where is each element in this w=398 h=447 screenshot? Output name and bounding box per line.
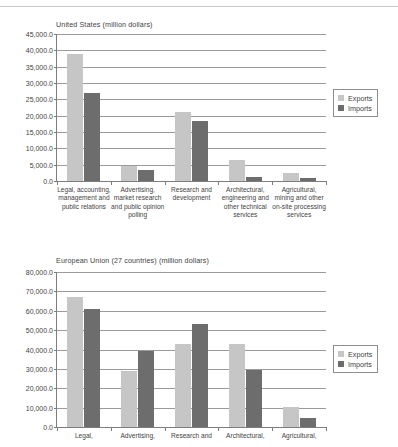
bar-group bbox=[111, 34, 165, 181]
bar-exports bbox=[121, 166, 137, 181]
legend-item-imports: Imports bbox=[338, 359, 372, 369]
bar-exports bbox=[283, 173, 299, 181]
bar-exports bbox=[175, 344, 191, 427]
bar-group bbox=[272, 272, 326, 427]
y-axis-tick-label: 10,000.0 bbox=[26, 145, 53, 152]
bar-group bbox=[218, 34, 272, 181]
x-axis-tick-mark bbox=[272, 427, 273, 431]
x-axis-category-label: Architectural, engineering and other tec… bbox=[218, 186, 272, 219]
legend-item-exports: Exports bbox=[338, 349, 372, 359]
legend-swatch-imports-icon bbox=[338, 361, 344, 367]
bar-group bbox=[272, 34, 326, 181]
y-axis-tick-label: 35,000.0 bbox=[26, 63, 53, 70]
x-axis-tick-mark bbox=[218, 181, 219, 185]
chart-european-union: European Union (27 countries) (million d… bbox=[0, 252, 398, 447]
x-axis-category-label: Legal, accounting, management and public… bbox=[57, 186, 111, 211]
bar-exports bbox=[175, 112, 191, 181]
legend-item-imports: Imports bbox=[338, 103, 372, 113]
x-axis-category-label: Advertising, bbox=[111, 432, 165, 440]
legend-swatch-exports-icon bbox=[338, 95, 344, 101]
bar-exports bbox=[229, 160, 245, 181]
x-axis-category-label: Legal, bbox=[57, 432, 111, 440]
bar-imports bbox=[192, 121, 208, 181]
x-axis-tick-mark bbox=[165, 181, 166, 185]
x-axis-category-label: Architectural, bbox=[218, 432, 272, 440]
y-axis-tick-label: 20,000.0 bbox=[26, 385, 53, 392]
x-axis-tick-mark bbox=[57, 427, 58, 431]
plot-area-united-states: 0.05,000.010,000.015,000.020,000.025,000… bbox=[56, 34, 326, 182]
y-axis-tick-label: 80,000.0 bbox=[26, 269, 53, 276]
y-axis-tick-label: 0.0 bbox=[43, 424, 53, 431]
x-axis-tick-mark bbox=[272, 181, 273, 185]
legend-label-imports: Imports bbox=[348, 360, 372, 369]
bar-imports bbox=[84, 309, 100, 427]
bar-imports bbox=[138, 351, 154, 427]
x-axis-tick-mark bbox=[57, 181, 58, 185]
bar-exports bbox=[121, 371, 137, 427]
legend-label-exports: Exports bbox=[348, 94, 372, 103]
bar-imports bbox=[138, 170, 154, 181]
x-axis-category-label: Agricultural, mining and other on-site p… bbox=[272, 186, 326, 219]
x-axis-category-label: Agricultural, bbox=[272, 432, 326, 440]
bar-imports bbox=[84, 93, 100, 181]
y-axis-tick-label: 10,000.0 bbox=[26, 404, 53, 411]
x-axis-tick-mark bbox=[326, 427, 327, 431]
page-top-divider bbox=[0, 6, 398, 7]
y-axis-tick-label: 60,000.0 bbox=[26, 307, 53, 314]
y-axis-tick-label: 5,000.0 bbox=[30, 161, 53, 168]
bar-imports bbox=[246, 370, 262, 427]
plot-area-european-union: 0.010,000.020,000.030,000.040,000.050,00… bbox=[56, 272, 326, 428]
bar-exports bbox=[283, 407, 299, 427]
y-axis-tick-label: 30,000.0 bbox=[26, 80, 53, 87]
y-axis-tick-label: 15,000.0 bbox=[26, 129, 53, 136]
chart-title-european-union: European Union (27 countries) (million d… bbox=[56, 256, 209, 265]
bar-exports bbox=[229, 344, 245, 427]
x-axis-tick-mark bbox=[326, 181, 327, 185]
bar-exports bbox=[67, 54, 83, 181]
legend-item-exports: Exports bbox=[338, 93, 372, 103]
y-axis-tick-label: 40,000.0 bbox=[26, 47, 53, 54]
x-axis-tick-mark bbox=[165, 427, 166, 431]
x-axis-tick-mark bbox=[111, 181, 112, 185]
x-axis-category-label: Research and development bbox=[165, 186, 219, 203]
legend-label-exports: Exports bbox=[348, 350, 372, 359]
x-axis-category-label: Advertising, market research and public … bbox=[111, 186, 165, 219]
y-axis-tick-label: 25,000.0 bbox=[26, 96, 53, 103]
legend-european-union: Exports Imports bbox=[333, 345, 378, 373]
bar-group bbox=[218, 272, 272, 427]
chart-title-united-states: United States (million dollars) bbox=[56, 20, 153, 29]
y-axis-tick-label: 20,000.0 bbox=[26, 112, 53, 119]
y-axis-tick-label: 0.0 bbox=[43, 178, 53, 185]
y-axis-tick-label: 40,000.0 bbox=[26, 346, 53, 353]
legend-swatch-imports-icon bbox=[338, 105, 344, 111]
bar-group bbox=[111, 272, 165, 427]
bar-group bbox=[165, 34, 219, 181]
legend-swatch-exports-icon bbox=[338, 351, 344, 357]
bar-exports bbox=[67, 297, 83, 427]
y-axis-tick-label: 50,000.0 bbox=[26, 327, 53, 334]
chart-united-states: United States (million dollars) 0.05,000… bbox=[0, 16, 398, 230]
bar-group bbox=[57, 272, 111, 427]
x-axis-category-label: Research and bbox=[165, 432, 219, 440]
bar-imports bbox=[300, 418, 316, 427]
y-axis-tick-label: 70,000.0 bbox=[26, 288, 53, 295]
x-axis-tick-mark bbox=[218, 427, 219, 431]
bar-imports bbox=[300, 178, 316, 181]
legend-label-imports: Imports bbox=[348, 104, 372, 113]
bar-group bbox=[57, 34, 111, 181]
y-axis-tick-label: 45,000.0 bbox=[26, 31, 53, 38]
x-axis-tick-mark bbox=[111, 427, 112, 431]
bar-imports bbox=[246, 177, 262, 181]
bar-imports bbox=[192, 324, 208, 427]
legend-united-states: Exports Imports bbox=[333, 89, 378, 117]
y-axis-tick-label: 30,000.0 bbox=[26, 365, 53, 372]
bar-group bbox=[165, 272, 219, 427]
